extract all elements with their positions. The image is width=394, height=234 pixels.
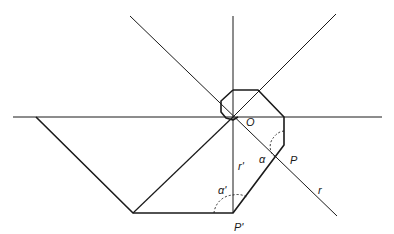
label-ray-r: r	[318, 184, 323, 196]
small-octagon	[221, 90, 238, 120]
diagonal-ne-sw	[233, 14, 336, 117]
label-angle-alpha-prime: α'	[218, 184, 227, 196]
label-origin-o: O	[246, 116, 255, 128]
polygon-edge-sw	[133, 117, 233, 213]
geometry-diagram: O P P' r r' α α'	[0, 0, 394, 234]
angle-alpha-prime-arc	[214, 195, 247, 213]
label-point-p: P	[290, 154, 298, 166]
angle-arcs	[214, 131, 284, 213]
outer-polygon	[36, 90, 284, 213]
reference-lines	[13, 14, 382, 216]
label-angle-alpha: α	[259, 153, 266, 165]
label-point-p-prime: P'	[234, 221, 244, 233]
label-ray-r-prime: r'	[238, 160, 245, 172]
polygon-outline	[36, 90, 284, 213]
